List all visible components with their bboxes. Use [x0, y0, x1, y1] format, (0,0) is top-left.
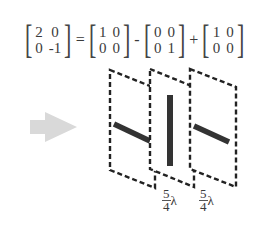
- spacing-label-2: 54 λ: [199, 188, 214, 213]
- plate-3: [190, 69, 236, 187]
- spacing-label-1: 54 λ: [162, 188, 177, 213]
- fraction-denominator: 4: [163, 201, 170, 213]
- fraction-denominator: 4: [200, 201, 207, 213]
- lambda-symbol: λ: [208, 193, 214, 209]
- plates-figure: [0, 0, 257, 242]
- lambda-symbol: λ: [171, 193, 177, 209]
- plate-1: [110, 70, 155, 188]
- diagram: [ 2 0 0 -1 ] = [ 1 0 0 0 ] - [ 0: [0, 0, 257, 242]
- plate-2: [150, 69, 194, 187]
- arrow-right-icon: [30, 112, 77, 142]
